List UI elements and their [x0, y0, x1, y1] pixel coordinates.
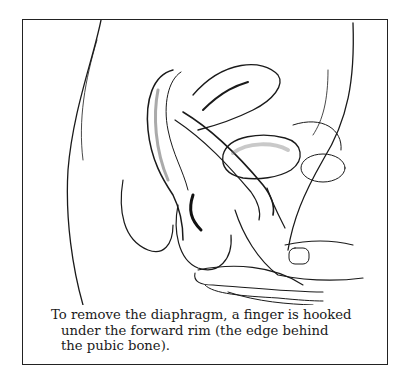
caption-line-2: under the forward rim (the edge behind [51, 323, 371, 339]
caption-line-3: the pubic bone). [51, 338, 371, 354]
figure-frame: To remove the diaphragm, a finger is hoo… [22, 19, 388, 365]
figure-caption: To remove the diaphragm, a finger is hoo… [51, 307, 371, 354]
caption-line-1: To remove the diaphragm, a finger is hoo… [51, 307, 371, 323]
anatomical-illustration [23, 20, 389, 305]
